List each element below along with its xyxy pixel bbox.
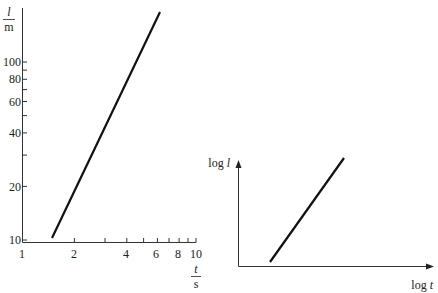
x-ticks [74, 238, 196, 243]
left-chart: l m 100 80 60 40 20 10 [3, 5, 202, 291]
y-tick-label: 40 [9, 126, 21, 140]
x-tick-label: 4 [123, 247, 129, 261]
x-tick-label: 6 [153, 247, 159, 261]
x-tick-label: 1 [19, 247, 25, 261]
y-tick-label: 60 [9, 95, 21, 109]
y-tick-label: 100 [3, 55, 21, 69]
x-unit-denominator: s [194, 277, 199, 291]
y-tick-labels: 100 80 60 40 20 10 [3, 55, 21, 247]
figure: l m 100 80 60 40 20 10 [0, 0, 438, 293]
x-unit-numerator: t [194, 262, 198, 276]
data-line [52, 12, 160, 238]
y-unit-numerator: l [7, 5, 11, 19]
y-tick-label: 10 [9, 233, 21, 247]
x-tick-labels: 1 2 4 6 8 10 [19, 247, 202, 261]
y-tick-label: 20 [9, 180, 21, 194]
x-tick-label: 8 [175, 247, 181, 261]
data-line [270, 158, 344, 262]
y-axis-arrow-icon [236, 160, 242, 168]
y-ticks [23, 62, 28, 240]
x-tick-label: 10 [190, 247, 202, 261]
x-axis-arrow-icon [426, 264, 434, 270]
x-axis-label: log t [411, 278, 433, 292]
y-axis-label: log l [208, 156, 230, 170]
x-tick-label: 2 [71, 247, 77, 261]
y-unit-denominator: m [4, 20, 14, 34]
right-chart: log l log t [208, 156, 434, 292]
y-tick-label: 80 [9, 72, 21, 86]
